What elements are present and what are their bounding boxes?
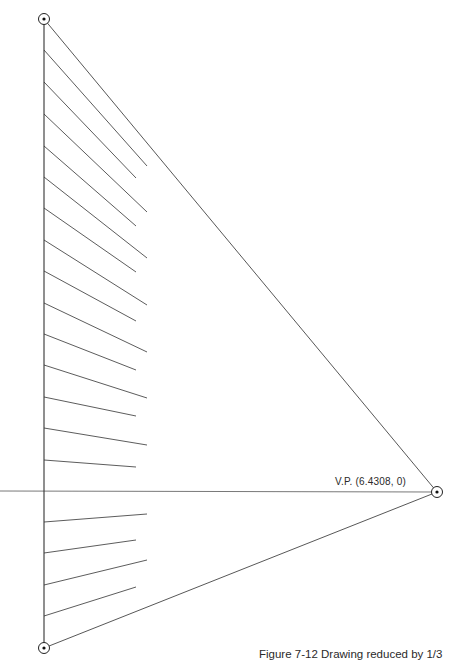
construction-line [44,240,147,305]
construction-line [44,560,147,585]
construction-line [44,114,147,212]
construction-line [44,208,136,272]
construction-line [44,514,147,522]
construction-line [44,587,136,616]
construction-line [44,397,136,416]
construction-line [44,334,136,370]
perspective-drawing [0,0,461,672]
vanishing-point-label: V.P. (6.4308, 0) [335,476,406,487]
construction-line [44,540,136,553]
construction-line [44,177,147,258]
construction-line [44,303,147,352]
vanishing-point-marker [432,487,443,498]
construction-line [44,50,147,166]
figure-caption: Figure 7-12 Drawing reduced by 1/3 [259,648,442,660]
construction-line [44,460,136,467]
ray-bottom-to-vp [44,492,437,648]
construction-line [44,82,136,178]
construction-line [44,271,136,321]
bottom-point-marker [39,643,50,654]
horizon-line [0,491,437,492]
top-point-marker [39,14,50,25]
construction-line [44,428,147,445]
ray-top-to-vp [44,19,437,492]
construction-lines [44,50,147,616]
construction-line [44,365,147,398]
